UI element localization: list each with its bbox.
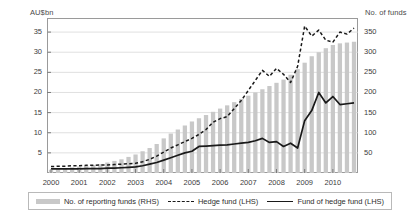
bar	[176, 130, 180, 173]
bar	[288, 75, 292, 173]
bar	[267, 86, 271, 173]
y-axis-right-tick-label: 350	[364, 27, 394, 36]
bar	[281, 80, 285, 173]
y-axis-right-tick-label: 200	[364, 87, 394, 96]
chart-svg	[47, 18, 358, 173]
y-axis-left-tick-label: 5	[16, 148, 42, 157]
bar	[310, 56, 314, 173]
bar	[295, 69, 299, 173]
chart-legend: No. of reporting funds (RHS) Hedge fund …	[28, 192, 392, 210]
y-axis-left-tick-label: 20	[16, 87, 42, 96]
y-axis-right-tick-label: 300	[364, 47, 394, 56]
bars-series-no-of-reporting-funds	[49, 42, 356, 173]
y-axis-right-tick-label: 250	[364, 67, 394, 76]
bar	[274, 83, 278, 173]
bar	[232, 102, 236, 173]
bar	[260, 89, 264, 173]
bar	[317, 52, 321, 173]
legend-item-fund-of-hedge-fund: Fund of hedge fund (LHS)	[267, 197, 384, 206]
y-axis-left-tick-label: 15	[16, 108, 42, 117]
bar	[155, 144, 159, 173]
y-axis-left-tick-label: 30	[16, 47, 42, 56]
chart-container: AU$bn No. of funds 510152025303550100150…	[0, 0, 420, 222]
y-axis-right-tick-label: 100	[364, 128, 394, 137]
bar	[352, 42, 356, 173]
legend-label-reporting-funds: No. of reporting funds (RHS)	[64, 197, 159, 206]
bar	[253, 92, 257, 173]
fund-of-hedge-fund-line	[51, 92, 354, 168]
bar	[119, 159, 123, 173]
line-series-fund-of-hedge-fund	[51, 92, 354, 168]
y-axis-right-tick-label: 50	[364, 148, 394, 157]
bar	[162, 138, 166, 173]
y-axis-left-tick-label: 35	[16, 27, 42, 36]
bar	[345, 43, 349, 173]
plot-area	[47, 18, 358, 173]
legend-item-reporting-funds: No. of reporting funds (RHS)	[36, 197, 159, 206]
y-axis-right-tick-label: 150	[364, 108, 394, 117]
y-axis-right-title: No. of funds	[365, 8, 407, 17]
bar	[331, 45, 335, 173]
bar	[239, 99, 243, 173]
bar	[324, 48, 328, 173]
bar	[126, 157, 130, 173]
bar	[204, 115, 208, 173]
bar	[246, 96, 250, 173]
dashed-line-swatch-icon	[168, 201, 194, 202]
bar	[112, 161, 116, 173]
legend-label-fund-of-hedge-fund: Fund of hedge fund (LHS)	[297, 197, 384, 206]
y-axis-left-tick-label: 25	[16, 67, 42, 76]
bar	[338, 43, 342, 173]
legend-item-hedge-fund: Hedge fund (LHS)	[168, 197, 258, 206]
bar-swatch-icon	[36, 199, 60, 204]
y-axis-left-tick-label: 10	[16, 128, 42, 137]
bar	[183, 125, 187, 173]
solid-line-swatch-icon	[267, 201, 293, 202]
x-axis-tick-label: 2010	[316, 178, 350, 187]
bar	[169, 134, 173, 173]
y-axis-left-title: AU$bn	[30, 8, 53, 17]
bar	[190, 121, 194, 173]
legend-label-hedge-fund: Hedge fund (LHS)	[198, 197, 258, 206]
